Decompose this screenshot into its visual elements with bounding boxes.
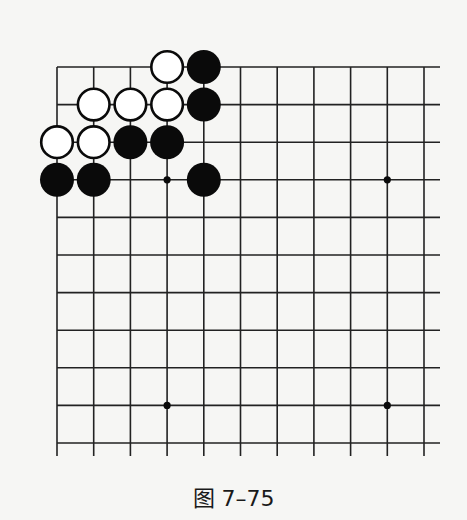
grid-lines (57, 67, 440, 456)
black-stone (187, 50, 221, 84)
white-stone (115, 89, 147, 121)
black-stone (113, 125, 147, 159)
white-stone (151, 89, 183, 121)
star-point (384, 402, 391, 409)
black-stone (187, 163, 221, 197)
star-point (164, 402, 171, 409)
white-stone (151, 51, 183, 83)
black-stone (40, 163, 74, 197)
white-stone (41, 126, 73, 158)
white-stone (78, 89, 110, 121)
star-point (164, 176, 171, 183)
go-board (0, 0, 467, 475)
figure-caption: 图 7–75 (0, 480, 467, 512)
star-point (384, 176, 391, 183)
black-stone (187, 88, 221, 122)
black-stone (150, 125, 184, 159)
white-stone (78, 126, 110, 158)
black-stone (77, 163, 111, 197)
